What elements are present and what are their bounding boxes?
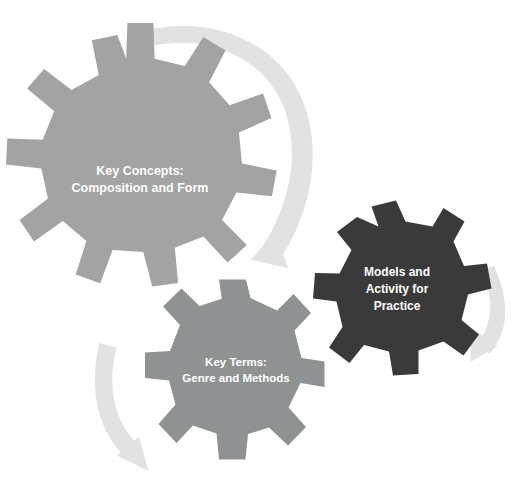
diagram-canvas: Key Concepts: Composition and Form Key T…	[0, 0, 528, 499]
gear-label-line-3: Practice	[374, 299, 421, 313]
gear-label-line-1: Models and	[364, 265, 430, 279]
gear-label-line-2: Composition and Form	[72, 181, 209, 195]
arrow-terms-downward	[95, 343, 149, 471]
gear-models-activity[interactable]: Models and Activity for Practice	[313, 201, 492, 376]
gear-shape	[145, 280, 325, 460]
gear-label-line-2: Genre and Methods	[182, 372, 289, 384]
gear-label-line-1: Key Terms:	[205, 356, 267, 368]
gear-label-line-2: Activity for	[366, 282, 429, 296]
gear-process-diagram: Key Concepts: Composition and Form Key T…	[0, 0, 528, 499]
gear-label-line-1: Key Concepts:	[96, 164, 184, 178]
gear-key-terms[interactable]: Key Terms: Genre and Methods	[145, 280, 325, 460]
gear-shape	[6, 23, 277, 286]
gear-key-concepts[interactable]: Key Concepts: Composition and Form	[6, 23, 277, 286]
